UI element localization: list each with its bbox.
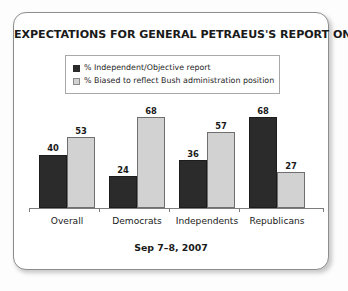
bar-value-label: 53 — [67, 127, 95, 135]
bar-slot: 36 — [179, 108, 207, 208]
axis-tick — [169, 208, 170, 212]
bar-group: 4053 — [32, 108, 102, 208]
category-label: Republicans — [242, 216, 312, 226]
bar-value-label: 36 — [179, 150, 207, 158]
bar-slot: 68 — [249, 108, 277, 208]
legend-item-biased: % Biased to reflect Bush administration … — [73, 75, 272, 87]
bar[interactable] — [109, 176, 137, 208]
bar-slot: 68 — [137, 108, 165, 208]
category-label: Democrats — [102, 216, 172, 226]
bar[interactable] — [179, 160, 207, 208]
dark-swatch-icon — [73, 65, 80, 72]
axis-tick — [323, 208, 324, 212]
x-axis-line — [29, 208, 324, 209]
bar-slot: 27 — [277, 108, 305, 208]
bar-slot: 57 — [207, 108, 235, 208]
bar-value-label: 40 — [39, 144, 67, 152]
bar-slot: 24 — [109, 108, 137, 208]
bar[interactable] — [137, 117, 165, 208]
axis-tick — [239, 208, 240, 212]
bar[interactable] — [67, 137, 95, 208]
light-swatch-icon — [73, 78, 80, 85]
bar-value-label: 24 — [109, 166, 137, 174]
category-labels: OverallDemocratsIndependentsRepublicans — [32, 216, 312, 226]
bar-value-label: 57 — [207, 122, 235, 130]
bar-value-label: 68 — [249, 107, 277, 115]
bar-group: 2468 — [102, 108, 172, 208]
axis-tick — [29, 208, 30, 212]
bar-value-label: 68 — [137, 107, 165, 115]
chart-legend: % Independent/Objective report % Biased … — [65, 55, 280, 94]
legend-item-label: % Independent/Objective report — [84, 64, 211, 72]
bar-slot: 40 — [39, 108, 67, 208]
axis-tick — [99, 208, 100, 212]
chart-card: EXPECTATIONS FOR GENERAL PETRAEUS'S REPO… — [13, 12, 329, 270]
plot-area: 4053246836576827 — [32, 108, 312, 208]
category-label: Overall — [32, 216, 102, 226]
page-title: EXPECTATIONS FOR GENERAL PETRAEUS'S REPO… — [14, 28, 328, 41]
bar-group: 3657 — [172, 108, 242, 208]
chart-footer-date: Sep 7–8, 2007 — [14, 242, 328, 253]
bar[interactable] — [207, 132, 235, 208]
bar[interactable] — [249, 117, 277, 208]
bar[interactable] — [39, 155, 67, 208]
bar-slot: 53 — [67, 108, 95, 208]
legend-item-independent: % Independent/Objective report — [73, 62, 272, 74]
bar-value-label: 27 — [277, 162, 305, 170]
bar-groups: 4053246836576827 — [32, 108, 312, 208]
chart-canvas: EXPECTATIONS FOR GENERAL PETRAEUS'S REPO… — [0, 0, 348, 291]
bar-group: 6827 — [242, 108, 312, 208]
bar[interactable] — [277, 172, 305, 208]
category-label: Independents — [172, 216, 242, 226]
legend-item-label: % Biased to reflect Bush administration … — [84, 77, 274, 85]
